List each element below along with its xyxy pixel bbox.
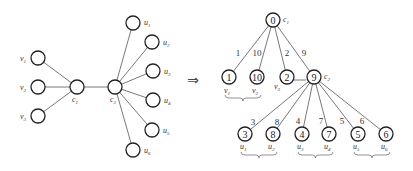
tree-node-label: u2 [268,142,275,152]
node-v2 [31,80,45,94]
edge-weight: 7 [319,116,324,126]
node-u4 [146,93,160,107]
node-label-u3: u3 [164,67,171,77]
node-u6 [126,143,140,157]
group-brace [241,152,277,158]
node-label-v1: v1 [20,54,26,64]
tree-braces [225,95,390,158]
tree-level2-node-value: 3 [243,129,248,140]
node-label-u5: u5 [163,126,170,136]
edge-weight: 9 [302,48,307,58]
node-label-u6: u6 [144,146,151,156]
tree-root-label: c1 [283,15,289,25]
tree-level2-node-value: 6 [384,129,389,140]
tree-level2-node-value: 7 [327,129,332,140]
node-c1 [70,80,84,94]
tree-node-label: v2 [252,86,259,96]
edge-c2-u6 [115,87,133,150]
edge-c2-u1 [115,23,133,87]
edge-weight: 4 [296,116,301,126]
tree-node-label: u5 [353,142,360,152]
edge-weight: 1 [236,48,241,58]
node-v3 [31,109,45,123]
edge-weight: 5 [340,116,345,126]
group-brace [354,152,390,158]
tree-level2-node-value: 5 [356,129,361,140]
edge-c2-u2 [115,42,152,87]
node-label-c1: c1 [72,95,78,105]
left-graph-edges [38,23,153,150]
tree-level2-node-value: 4 [300,129,305,140]
node-label-u1: u1 [144,18,151,28]
node-c2 [108,80,122,94]
tree-node-label: u6 [381,142,388,152]
group-brace [298,152,333,158]
node-u2 [145,35,159,49]
tree-level2-node-value: 8 [271,129,276,140]
tree-node-label: c2 [324,72,331,82]
left-graph-nodes: v1v2v3c1c2u1u2u3u4u5u6 [20,16,171,157]
graph-to-tree-diagram: v1v2v3c1c2u1u2u3u4u5u6 ⇒ 11029384756 0c1… [0,0,413,171]
tree-level1-node-value: 10 [252,72,262,83]
node-label-u2: u2 [163,38,170,48]
tree-root-node-value: 0 [271,15,276,26]
tree-node-label: v1 [224,86,230,96]
tree-edge-9-6 [314,77,386,134]
node-v1 [31,51,45,65]
tree-node-label: u1 [240,142,247,152]
node-label-v2: v2 [20,83,27,93]
node-u5 [145,123,159,137]
tree-node-label: u4 [324,142,331,152]
node-label-v3: v3 [20,112,27,122]
tree-edge-root-9 [273,20,314,77]
tree-node-label: v3 [274,82,281,92]
tree-level1-node-value: 2 [285,72,290,83]
node-u3 [146,64,160,78]
edge-weight: 3 [251,117,256,127]
transform-arrow-icon: ⇒ [187,72,199,88]
edge-weight: 8 [275,117,280,127]
tree-level1-node-value: 9 [312,72,317,83]
edge-weight: 10 [253,48,263,58]
node-u1 [126,16,140,30]
node-label-u4: u4 [164,96,171,106]
tree-level1-node-value: 1 [227,72,232,83]
edge-weight: 2 [285,48,290,58]
node-label-c2: c2 [110,95,117,105]
tree-node-label: u3 [297,142,304,152]
edge-weight: 6 [360,116,365,126]
